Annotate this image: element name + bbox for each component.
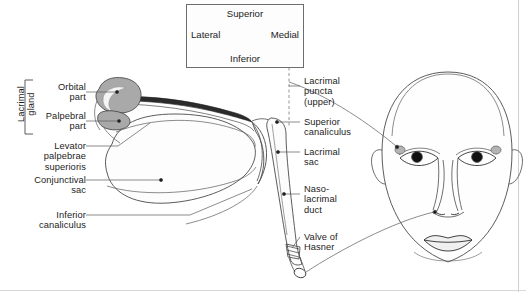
leader-dot-conjunctival-sac [159, 178, 162, 181]
leader-dot-superior-canaliculus [275, 120, 278, 123]
naso-lacrimal-duct [267, 118, 302, 265]
duct-opening [293, 267, 307, 280]
lacrimal-gland-palpebral-part [98, 111, 130, 130]
label-inferior-canaliculus: Inferior canaliculus [10, 210, 86, 231]
leader-dot-palpebral-part [117, 119, 120, 122]
leader-dot-face-puncta [395, 145, 399, 149]
lacrimal-gland-orbital-part [96, 77, 141, 113]
label-lacrimal-sac: Lacrimal sac [304, 147, 370, 168]
pupil-left [412, 152, 423, 163]
label-palpebral-part: Palpebral part [18, 111, 86, 132]
orientation-superior-label: Superior [187, 8, 303, 19]
orientation-box: Superior Lateral Medial Inferior [186, 4, 304, 68]
leader-dot-orbital-part [115, 90, 118, 93]
label-levator-palpebrae-superioris: Levator palpebrae superioris [16, 141, 86, 172]
label-valve-of-hasner: Valve of Hasner [304, 232, 370, 253]
lacrimal-apparatus-figure: Superior Lateral Medial Inferior Lacrima… [0, 0, 526, 292]
leader-dot-face-nose [433, 210, 437, 214]
leader-dot-lacrimal-sac [276, 150, 279, 153]
label-naso-lacrimal-duct: Naso- lacrimal duct [304, 184, 370, 215]
face-lacrimal-gland-right [491, 146, 501, 154]
label-lacrimal-puncta-upper: Lacrimal puncta (upper) [304, 76, 370, 107]
orientation-medial-label: Medial [271, 29, 299, 40]
label-conjunctival-sac: Conjunctival sac [6, 175, 86, 196]
pupil-right [472, 152, 483, 163]
leader-dot-naso-lacrimal-duct [282, 192, 285, 195]
label-orbital-part: Orbital part [34, 82, 86, 103]
label-superior-canaliculus: Superior canaliculus [304, 117, 374, 138]
orientation-lateral-label: Lateral [191, 29, 220, 40]
orientation-inferior-label: Inferior [187, 53, 303, 64]
